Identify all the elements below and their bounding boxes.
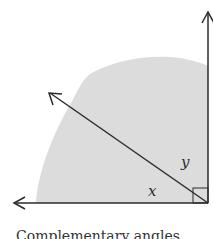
angle-label-x: x (148, 182, 157, 200)
angle-label-y: y (180, 153, 190, 171)
shaded-region (36, 57, 208, 203)
complementary-angles-diagram: x y (0, 0, 213, 239)
arrowhead-diagonal-icon (49, 93, 62, 105)
diagram-caption: Complementary angles (16, 228, 180, 239)
